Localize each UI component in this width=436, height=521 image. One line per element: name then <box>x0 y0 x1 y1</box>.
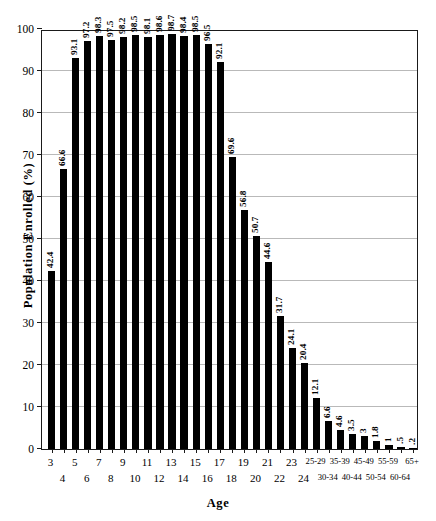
x-tick-label: 45-49 <box>354 456 374 466</box>
x-tick-label: 15 <box>190 456 201 468</box>
bar <box>72 58 79 449</box>
x-tick-mark <box>184 449 185 453</box>
bar-value-label: 4.6 <box>334 415 344 427</box>
y-tick-label: 10 <box>0 401 34 413</box>
bar-value-label: 1.8 <box>370 427 380 439</box>
bar-value-label: 98.5 <box>190 16 200 32</box>
x-tick-mark <box>208 449 209 453</box>
x-tick-mark <box>220 449 221 453</box>
y-tick-mark <box>37 448 42 449</box>
bar-value-label: 98.1 <box>142 18 152 34</box>
x-tick-label: 20 <box>250 472 261 484</box>
x-tick-mark <box>172 449 173 453</box>
y-tick-label: 60 <box>0 191 34 203</box>
x-tick-mark <box>88 449 89 453</box>
x-tick-mark <box>160 449 161 453</box>
bar-value-label: 50.7 <box>250 217 260 233</box>
x-tick-label: 40-44 <box>342 472 362 482</box>
bar-value-label: 69.6 <box>226 137 236 153</box>
bar <box>168 34 175 449</box>
bar-value-label: 98.2 <box>117 17 127 33</box>
x-tick-mark <box>64 449 65 453</box>
x-tick-label: 25-29 <box>306 456 326 466</box>
bar-value-label: 1 <box>383 437 393 442</box>
bar-value-label: .5 <box>395 437 405 444</box>
bar <box>289 348 296 449</box>
bar <box>301 363 308 449</box>
bar-value-label: 93.1 <box>69 39 79 55</box>
x-tick-mark <box>329 449 330 453</box>
y-tick-label: 80 <box>0 107 34 119</box>
bar <box>48 271 55 449</box>
bar-value-label: 3 <box>358 429 368 434</box>
x-tick-mark <box>305 449 306 453</box>
x-tick-mark <box>317 449 318 453</box>
x-tick-mark <box>341 449 342 453</box>
y-tick-label: 50 <box>0 233 34 245</box>
x-tick-label: 11 <box>142 456 153 468</box>
bar <box>132 35 139 449</box>
bar-value-label: 6.6 <box>322 406 332 418</box>
bar-value-label: .2 <box>407 438 417 445</box>
bar-value-label: 92.1 <box>214 43 224 59</box>
bar <box>60 169 67 449</box>
x-tick-mark <box>244 449 245 453</box>
y-tick-label: 70 <box>0 149 34 161</box>
y-tick-label: 40 <box>0 275 34 287</box>
bar-value-label: 12.1 <box>310 379 320 395</box>
bar <box>337 430 344 449</box>
y-tick-mark <box>37 364 42 365</box>
bar-value-label: 20.4 <box>298 344 308 360</box>
x-tick-mark <box>256 449 257 453</box>
y-tick-mark <box>37 196 42 197</box>
x-tick-label: 22 <box>274 472 285 484</box>
bar <box>144 37 151 449</box>
x-tick-label: 16 <box>202 472 213 484</box>
y-tick-mark <box>37 406 42 407</box>
x-tick-mark <box>293 449 294 453</box>
x-tick-label: 12 <box>153 472 164 484</box>
x-tick-mark <box>52 449 53 453</box>
y-tick-label: 0 <box>0 443 34 455</box>
bar-value-label: 44.6 <box>262 242 272 258</box>
bar-value-label: 31.7 <box>274 296 284 312</box>
bar-value-label: 98.4 <box>178 16 188 32</box>
bar <box>229 157 236 449</box>
bar <box>193 35 200 449</box>
x-tick-label: 18 <box>226 472 237 484</box>
bar-value-label: 98.6 <box>154 15 164 31</box>
x-tick-mark <box>365 449 366 453</box>
x-tick-label: 9 <box>120 456 126 468</box>
x-tick-label: 19 <box>238 456 249 468</box>
y-tick-label: 90 <box>0 65 34 77</box>
y-tick-mark <box>37 154 42 155</box>
x-tick-label: 60-64 <box>390 472 410 482</box>
x-tick-label: 35-39 <box>330 456 350 466</box>
x-tick-mark <box>268 449 269 453</box>
x-tick-label: 5 <box>72 456 78 468</box>
y-tick-label: 20 <box>0 359 34 371</box>
x-tick-mark <box>124 449 125 453</box>
x-tick-label: 21 <box>262 456 273 468</box>
bar-value-label: 96.5 <box>202 24 212 40</box>
x-tick-mark <box>377 449 378 453</box>
x-tick-label: 4 <box>60 472 66 484</box>
x-tick-label: 65+ <box>405 456 418 466</box>
bar-value-label: 98.5 <box>129 16 139 32</box>
bar <box>253 236 260 449</box>
y-tick-label: 30 <box>0 317 34 329</box>
y-tick-mark <box>37 238 42 239</box>
bar-value-label: 97.2 <box>81 21 91 37</box>
bar-chart: Population Enrolled (%) 0102030405060708… <box>0 0 436 521</box>
y-tick-mark <box>37 280 42 281</box>
y-tick-mark <box>37 70 42 71</box>
bar <box>361 436 368 449</box>
x-tick-label: 24 <box>298 472 309 484</box>
x-tick-label: 17 <box>214 456 225 468</box>
x-tick-label: 7 <box>96 456 102 468</box>
x-tick-label: 3 <box>48 456 54 468</box>
x-tick-label: 23 <box>286 456 297 468</box>
bar <box>217 62 224 449</box>
bar-value-label: 98.7 <box>166 15 176 31</box>
x-tick-mark <box>232 449 233 453</box>
